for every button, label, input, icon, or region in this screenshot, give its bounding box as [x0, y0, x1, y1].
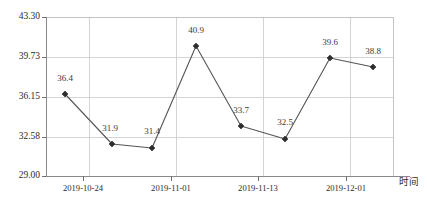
x-axis-label-0: 2019-10-24 [63, 183, 104, 193]
chart-canvas: 43.30 39.73 36.15 32.58 29.00 2019-10-24… [0, 0, 427, 214]
x-tickmarks [83, 176, 346, 181]
x-axis-label-2: 2019-11-13 [238, 183, 278, 193]
y-axis-label-1: 39.73 [19, 51, 41, 61]
y-axis-labels: 43.30 39.73 36.15 32.58 29.00 [19, 11, 41, 180]
data-point-label: 31.9 [102, 123, 118, 133]
data-point-label: 36.4 [57, 73, 73, 83]
data-point-label: 39.6 [322, 37, 338, 47]
plot-background [46, 17, 393, 176]
x-axis-title: 时间 [399, 176, 419, 187]
data-point-label: 40.9 [188, 25, 204, 35]
x-axis-label-3: 2019-12-01 [326, 183, 366, 193]
data-point-label: 38.8 [365, 46, 381, 56]
x-axis-labels: 2019-10-24 2019-11-01 2019-11-13 2019-12… [63, 183, 366, 193]
y-axis-label-2: 36.15 [19, 91, 41, 101]
y-axis-label-4: 29.00 [19, 170, 41, 180]
x-axis-label-1: 2019-11-01 [151, 183, 191, 193]
y-axis-label-3: 32.58 [19, 131, 41, 141]
data-point-label: 31.4 [144, 126, 160, 136]
y-axis-label-0: 43.30 [19, 11, 41, 21]
data-point-label: 33.7 [233, 105, 249, 115]
y-tickmarks [42, 17, 46, 176]
line-chart: 43.30 39.73 36.15 32.58 29.00 2019-10-24… [0, 0, 427, 214]
data-point-label: 32.5 [277, 117, 293, 127]
